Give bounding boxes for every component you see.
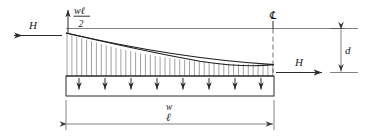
structural-load-diagram: ℄ wℓ 2 H H d	[0, 0, 370, 139]
distributed-load-band	[66, 76, 274, 96]
rise-dimension-label: d	[345, 44, 351, 56]
left-thrust-force: H	[14, 19, 62, 36]
centerline-label: ℄	[269, 9, 277, 21]
right-thrust-force: H	[276, 56, 322, 73]
reaction-denominator: 2	[79, 18, 84, 29]
load-arrows	[79, 78, 261, 90]
vertical-reaction-label: wℓ 2	[74, 5, 91, 29]
left-thrust-label: H	[28, 19, 38, 31]
rise-dimension: d	[330, 29, 358, 73]
centerline-marker: ℄	[269, 9, 277, 74]
span-dimension-label: ℓ	[166, 111, 171, 123]
reaction-numerator: wℓ	[74, 5, 85, 16]
right-thrust-label: H	[294, 56, 304, 68]
diagram-canvas: ℄ wℓ 2 H H d	[0, 0, 370, 139]
